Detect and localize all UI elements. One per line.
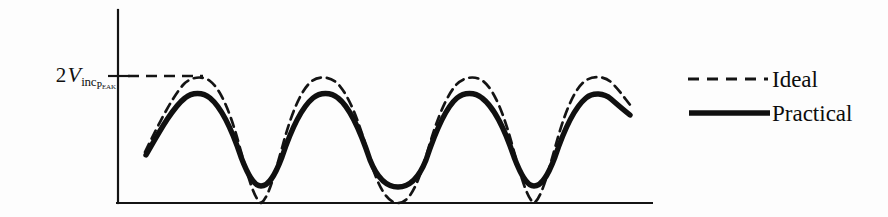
waveform-figure: 2VincPeak Ideal Practical [0, 0, 888, 217]
y-axis-label-coefficient: 2 [56, 63, 67, 87]
legend: Ideal Practical [686, 62, 886, 130]
solid-line-icon [686, 106, 770, 120]
legend-label-practical: Practical [770, 102, 852, 125]
legend-item-ideal: Ideal [686, 62, 886, 96]
legend-label-ideal: Ideal [770, 68, 818, 91]
legend-item-practical: Practical [686, 96, 886, 130]
y-axis-label-subscript: inc [81, 74, 96, 89]
y-axis-label-symbol: V [67, 62, 82, 87]
y-axis-label-subsubscript: Peak [96, 80, 116, 91]
dashed-line-icon [686, 72, 770, 86]
y-axis-label: 2VincPeak [24, 60, 116, 90]
